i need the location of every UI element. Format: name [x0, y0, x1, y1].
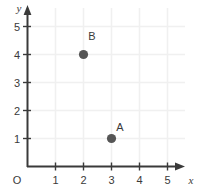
x-axis-label: x	[188, 174, 194, 186]
scatter-plot-svg: 1 2 3 4 5 1 2 3 4 5 O y x A B	[0, 0, 200, 195]
y-tick-label-5: 5	[14, 21, 20, 33]
x-tick-label-4: 4	[136, 174, 142, 186]
x-tick-label-1: 1	[52, 174, 58, 186]
point-marker-a[interactable]	[107, 134, 116, 143]
y-tick-label-1: 1	[14, 133, 20, 145]
x-tick-label-3: 3	[108, 174, 114, 186]
y-tick-label-4: 4	[14, 49, 20, 61]
origin-label: O	[13, 174, 22, 186]
point-label-b: B	[88, 30, 95, 42]
y-axis-label: y	[16, 2, 22, 14]
point-label-a: A	[116, 121, 124, 133]
y-tick-label-3: 3	[14, 77, 20, 89]
point-marker-b[interactable]	[79, 50, 88, 59]
x-tick-label-2: 2	[80, 174, 86, 186]
y-tick-label-2: 2	[14, 105, 20, 117]
coordinate-plane-chart: 1 2 3 4 5 1 2 3 4 5 O y x A B	[0, 0, 200, 195]
x-tick-label-5: 5	[164, 174, 170, 186]
